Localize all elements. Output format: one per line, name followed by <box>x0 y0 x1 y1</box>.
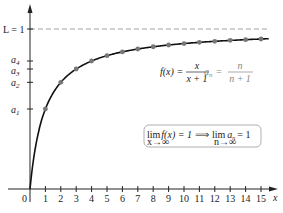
x-tick-label: 1 <box>43 193 48 204</box>
sequence-point <box>120 49 125 54</box>
x-tick-label: 15 <box>256 193 266 204</box>
sequence-numerator: n <box>238 60 243 71</box>
x-tick-label: 7 <box>135 193 140 204</box>
x-tick-label: 12 <box>210 193 220 204</box>
function-label: f(x) = <box>160 66 183 78</box>
asymptote-label: L = 1 <box>3 24 24 35</box>
sequence-point <box>58 80 63 85</box>
x-tick-label: 11 <box>195 193 205 204</box>
x-tick-label: 13 <box>225 193 235 204</box>
x-tick-label: 10 <box>179 193 189 204</box>
sequence-point <box>43 107 48 112</box>
function-curve <box>30 39 269 189</box>
x-axis-arrow-icon <box>269 187 278 192</box>
x-axis-label: x <box>272 192 278 203</box>
x-tick-label: 14 <box>241 193 251 204</box>
x-tick-label: 3 <box>74 193 79 204</box>
sequence-point <box>243 37 248 42</box>
sequence-point <box>135 47 140 52</box>
x-tick-label: 8 <box>151 193 156 204</box>
sequence-point <box>212 39 217 44</box>
function-numerator: x <box>194 60 200 71</box>
a1-label: a1 <box>11 104 20 117</box>
sequence-point <box>182 41 187 46</box>
sequence-point <box>89 59 94 64</box>
sequence-point <box>105 53 110 58</box>
x-tick-label: 5 <box>105 193 110 204</box>
sequence-point <box>151 44 156 49</box>
x-tick-label: 9 <box>166 193 171 204</box>
sequence-point <box>74 67 79 72</box>
sequence-point <box>228 38 233 43</box>
x-tick-label: 4 <box>89 193 94 204</box>
sequence-point <box>166 43 171 48</box>
origin-label: 0 <box>22 193 27 204</box>
sequence-point <box>197 40 202 45</box>
x-tick-label: 6 <box>120 193 125 204</box>
limit-chart: L = 1 a1 a2 a3 a4 f(x) = x x + 1 an= n n… <box>0 0 283 213</box>
y-axis-arrow-icon <box>28 4 33 13</box>
limit-subscript-x: x→∞ <box>147 136 169 147</box>
x-tick-label: 2 <box>58 193 63 204</box>
sequence-denominator: n + 1 <box>229 73 251 84</box>
sequence-point <box>259 37 264 42</box>
a2-label: a2 <box>11 77 20 90</box>
x-tick-labels: 123456789101112131415 <box>43 193 266 204</box>
limit-subscript-n: n→∞ <box>214 136 236 147</box>
